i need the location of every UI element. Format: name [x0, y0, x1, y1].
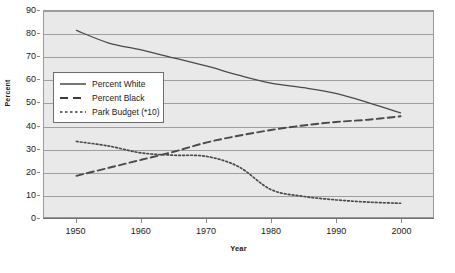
y-tick-mark	[37, 33, 40, 34]
y-tick-mark	[37, 10, 40, 11]
legend-item-percent-white: Percent White	[59, 77, 158, 91]
y-tick-label: 60	[26, 75, 36, 84]
y-tick-label: 70	[26, 52, 36, 61]
y-tick-mark	[37, 195, 40, 196]
y-tick-mark	[37, 149, 40, 150]
y-tick-label: 0	[31, 214, 36, 223]
legend-label: Park Budget (*10)	[92, 108, 160, 117]
x-tick-mark	[271, 219, 272, 223]
y-tick-mark	[37, 172, 40, 173]
legend: Percent White Percent Black Park Budget …	[53, 72, 164, 123]
y-tick-mark	[37, 56, 40, 57]
x-tick-mark	[401, 219, 402, 223]
legend-label: Percent White	[92, 80, 145, 89]
legend-line-dotted-icon	[59, 107, 87, 117]
x-tick-label: 1950	[66, 226, 86, 236]
x-tick-label: 1990	[326, 226, 346, 236]
x-axis-ticks: 195019601970198019902000	[43, 219, 434, 241]
x-tick-label: 2000	[391, 226, 411, 236]
legend-line-solid-icon	[59, 79, 87, 89]
x-tick-label: 1980	[261, 226, 281, 236]
y-tick-label: 20	[26, 167, 36, 176]
y-tick-mark	[37, 126, 40, 127]
x-tick-mark	[336, 219, 337, 223]
y-axis-ticks: 0102030405060708090	[14, 10, 40, 218]
y-tick-label: 80	[26, 29, 36, 38]
x-axis-title: Year	[43, 244, 434, 253]
y-tick-label: 50	[26, 98, 36, 107]
line-chart: Percent 0102030405060708090 195019601970…	[0, 0, 455, 273]
x-tick-mark	[76, 219, 77, 223]
legend-item-percent-black: Percent Black	[59, 91, 158, 105]
legend-line-dashed-icon	[59, 93, 87, 103]
y-tick-mark	[37, 79, 40, 80]
x-tick-mark	[141, 219, 142, 223]
y-tick-mark	[37, 218, 40, 219]
legend-label: Percent Black	[92, 94, 144, 103]
x-tick-label: 1960	[131, 226, 151, 236]
y-tick-label: 40	[26, 121, 36, 130]
y-tick-mark	[37, 102, 40, 103]
legend-item-park-budget: Park Budget (*10)	[59, 105, 158, 119]
y-tick-label: 90	[26, 6, 36, 15]
y-tick-label: 30	[26, 144, 36, 153]
y-axis-title: Percent	[4, 93, 11, 107]
series-dotted	[76, 141, 400, 203]
x-tick-mark	[206, 219, 207, 223]
y-tick-label: 10	[26, 190, 36, 199]
x-tick-label: 1970	[196, 226, 216, 236]
